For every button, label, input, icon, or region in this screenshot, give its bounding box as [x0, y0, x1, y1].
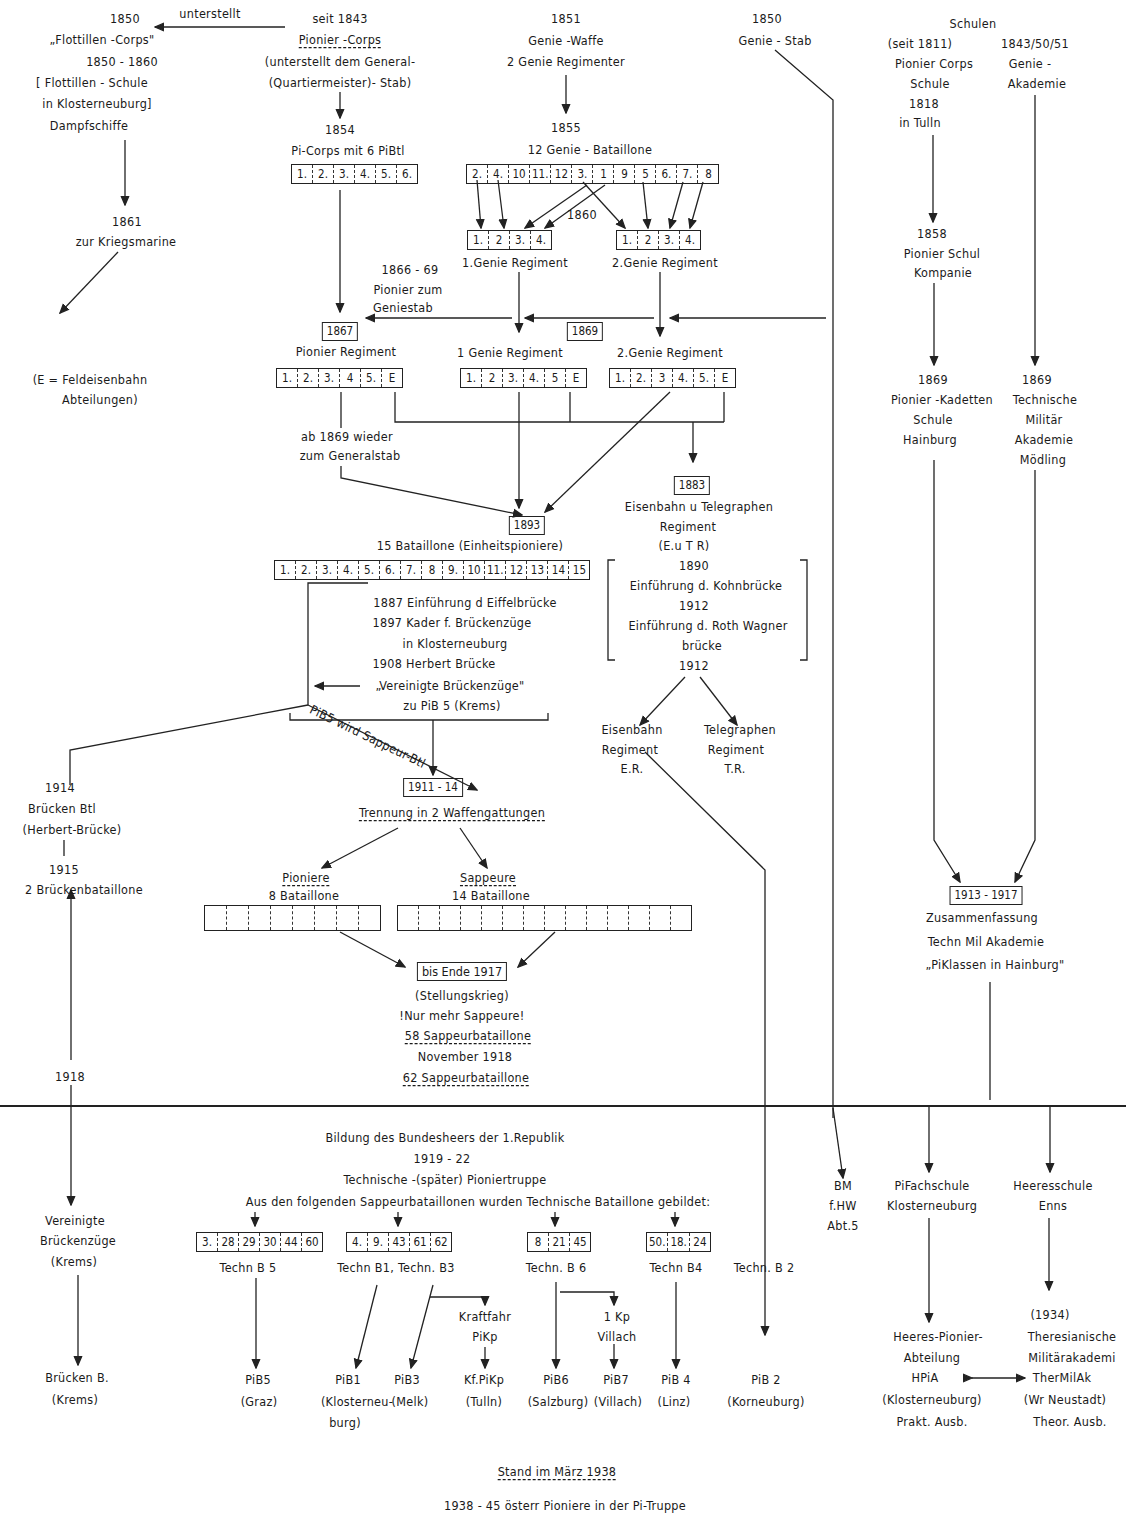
unit-box: 1. — [292, 165, 313, 183]
bis-ende-1917-box: bis Ende 1917 — [417, 962, 507, 981]
unit-box: 1. — [277, 369, 298, 387]
year-1918: 1918 — [55, 1067, 85, 1087]
pib3: PiB3 — [394, 1370, 420, 1390]
unit-box: 10 — [464, 561, 485, 579]
year-1854: 1854 — [325, 120, 355, 140]
trennung-label: Trennung in 2 Waffengattungen — [359, 803, 545, 823]
genie-stab-year: 1850 — [752, 9, 782, 29]
year-1867-box: 1867 — [322, 322, 358, 341]
note-1887: 1887 Einführung d Eiffelbrücke — [373, 593, 556, 613]
unit-box — [629, 906, 650, 930]
heeresschule-2: Enns — [1039, 1196, 1067, 1216]
year-1818: 1818 — [909, 94, 939, 114]
reg1-boxes: 1.23.4. — [467, 230, 552, 250]
sappeure-title: Sappeure — [460, 868, 516, 888]
unit-box: 44 — [281, 1233, 302, 1251]
note-1908: 1908 Herbert Brücke — [372, 654, 495, 674]
unit-box — [587, 906, 608, 930]
geniestab: Geniestab — [373, 298, 433, 318]
unit-box: 4. — [347, 1233, 368, 1251]
unit-box: 12 — [551, 165, 572, 183]
connector-lines — [0, 0, 1126, 1516]
kraftfahr-2: PiKp — [472, 1327, 497, 1347]
unit-box: 5. — [376, 165, 397, 183]
unit-box: 4 — [340, 369, 361, 387]
eisenbahn-regiment-3: E.R. — [621, 759, 644, 779]
unit-box: 60 — [302, 1233, 322, 1251]
pionier-schul: Pionier Schul — [904, 244, 980, 264]
final-note: 1938 - 45 österr Pioniere in der Pi-Trup… — [444, 1496, 686, 1516]
bruecken-b-1: Brücken B. — [45, 1368, 109, 1388]
schule-label: Schule — [910, 74, 949, 94]
tma-2: Militär — [1025, 410, 1062, 430]
techn-b2-label: Techn. B 2 — [734, 1258, 795, 1278]
unit-box: 8 — [422, 561, 443, 579]
reg2-label: 2.Genie Regiment — [612, 253, 718, 273]
flottillen-name: „Flottillen -Corps" — [50, 30, 155, 50]
eisenbahn-regiment-1: Eisenbahn — [601, 720, 662, 740]
genie1-regiment-boxes: 1.23.4.5E — [460, 368, 587, 388]
eut-regiment: Regiment — [660, 517, 716, 537]
unit-box: 24 — [690, 1233, 710, 1251]
legend-e-line2: Abteilungen) — [62, 390, 138, 410]
unit-box: 9. — [368, 1233, 389, 1251]
techn-b5-label: Techn B 5 — [220, 1258, 277, 1278]
unit-box: 62 — [431, 1233, 451, 1251]
eisenbahn-regiment-2: Regiment — [602, 740, 658, 760]
pioniere-title: Pioniere — [282, 868, 329, 888]
flottillen-year: 1850 — [110, 9, 140, 29]
akademie-label: Akademie — [1008, 74, 1066, 94]
pibtl-boxes: 1.2.3.4.5.6. — [291, 164, 418, 184]
unit-box: 45 — [570, 1233, 590, 1251]
pib4: PiB 4 — [661, 1370, 691, 1390]
unit-box: 1. — [275, 561, 296, 579]
kadetten-2: Schule — [913, 410, 952, 430]
techn-b13-boxes: 4.9.436162 — [346, 1232, 452, 1252]
zusammenfassung: Zusammenfassung — [926, 908, 1038, 928]
piklassen-hainburg: „PiKlassen in Hainburg" — [925, 955, 1064, 975]
unit-box — [461, 906, 482, 930]
vereinigte-1: Vereinigte — [45, 1211, 105, 1231]
pib1-place-2: burg) — [329, 1413, 361, 1433]
bruecke: brücke — [682, 636, 722, 656]
unit-box — [249, 906, 271, 930]
pionier-corps-schule-name: Pionier Corps — [895, 54, 973, 74]
year-1858: 1858 — [917, 224, 947, 244]
unit-box: 3. — [319, 369, 340, 387]
kompanie: Kompanie — [914, 263, 972, 283]
unit-box: 1. — [461, 369, 482, 387]
year-1912a: 1912 — [679, 596, 709, 616]
unit-box — [608, 906, 629, 930]
unit-box: 11. — [530, 165, 551, 183]
techn-b4-boxes: 50.18.24 — [646, 1232, 711, 1252]
unit-box: 3. — [659, 231, 680, 249]
unterstellt-label: unterstellt — [179, 4, 240, 24]
hpia-1: Heeres-Pionier- — [893, 1327, 983, 1347]
pib6: PiB6 — [543, 1370, 569, 1390]
unit-box: 4. — [673, 369, 694, 387]
sappeur-62: 62 Sappeurbataillone — [403, 1068, 530, 1088]
unit-box — [271, 906, 293, 930]
year-1893-box: 1893 — [509, 516, 545, 535]
unit-box — [482, 906, 503, 930]
unit-box: 3. — [317, 561, 338, 579]
unit-box — [440, 906, 461, 930]
unit-box: 15 — [569, 561, 589, 579]
eut-abbr: (E.u T R) — [658, 536, 709, 556]
unit-box — [419, 906, 440, 930]
unit-box: 13 — [527, 561, 548, 579]
flottillen-ships: Dampfschiffe — [50, 116, 128, 136]
pib5: PiB5 — [245, 1370, 271, 1390]
pionier-regiment-label: Pionier Regiment — [296, 342, 397, 362]
pionier-corps-name: Pionier -Corps — [299, 30, 382, 50]
genie1-regiment-label: 1 Genie Regiment — [457, 343, 563, 363]
unit-box: 2 — [638, 231, 659, 249]
year-1869a: 1869 — [918, 370, 948, 390]
kraftfahr-1: Kraftfahr — [459, 1307, 511, 1327]
unit-box: 3. — [510, 231, 531, 249]
unit-box — [293, 906, 315, 930]
stellungskrieg: (Stellungskrieg) — [415, 986, 509, 1006]
flottillen-school-place: in Klosterneuburg] — [42, 94, 152, 114]
eisenbahn-telegraphen: Eisenbahn u Telegraphen — [625, 497, 773, 517]
return-line-1: ab 1869 wieder — [301, 427, 393, 447]
